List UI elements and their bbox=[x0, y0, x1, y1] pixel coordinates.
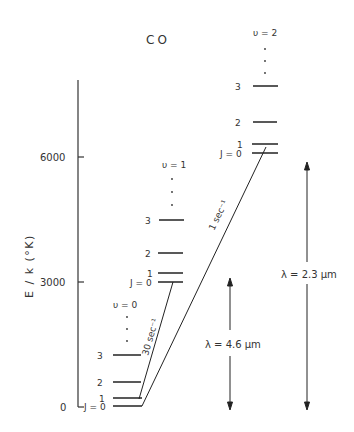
tick-label-6000: 6000 bbox=[40, 152, 65, 163]
transition-line-1sec bbox=[142, 147, 266, 406]
diagram-title: CO bbox=[146, 33, 170, 47]
v0-band-label: υ = 0 bbox=[113, 300, 137, 310]
v1-ellipsis-dots bbox=[171, 178, 173, 206]
v1-j3-label: 3 bbox=[145, 216, 151, 226]
y-axis bbox=[78, 80, 84, 407]
transition-label-1sec: 1 sec⁻¹ bbox=[207, 198, 230, 232]
band-v1 bbox=[158, 220, 184, 282]
v2-j1-label: 1 bbox=[237, 140, 243, 150]
v0-j3-label: 3 bbox=[97, 351, 103, 361]
v2-j0-label: J = 0 bbox=[219, 149, 242, 159]
v2-ellipsis-dots bbox=[264, 48, 266, 74]
y-axis-label: E / k (°K) bbox=[23, 234, 36, 298]
v0-j2-label: 2 bbox=[97, 378, 103, 388]
v0-ellipsis-dots bbox=[126, 316, 128, 342]
v1-j0-label: J = 0 bbox=[129, 278, 152, 288]
v2-band-label: υ = 2 bbox=[253, 28, 277, 38]
v1-j2-label: 2 bbox=[145, 249, 151, 259]
wavelength-label-4-6um: λ = 4.6 μm bbox=[205, 339, 261, 350]
tick-label-0: 0 bbox=[60, 402, 66, 413]
arrow-2-3um bbox=[305, 162, 310, 410]
v1-j1-label: 1 bbox=[147, 269, 153, 279]
v0-j1-label: 1 bbox=[99, 394, 105, 404]
energy-level-diagram: CO 6000 3000 0 E / k (°K) J = 0 1 2 3 υ … bbox=[0, 0, 354, 432]
wavelength-label-2-3um: λ = 2.3 μm bbox=[281, 269, 337, 280]
v1-band-label: υ = 1 bbox=[162, 160, 186, 170]
band-v0 bbox=[113, 355, 142, 406]
band-v2 bbox=[252, 86, 278, 153]
tick-label-3000: 3000 bbox=[40, 277, 65, 288]
v2-j2-label: 2 bbox=[235, 118, 241, 128]
v2-j3-label: 3 bbox=[235, 82, 241, 92]
